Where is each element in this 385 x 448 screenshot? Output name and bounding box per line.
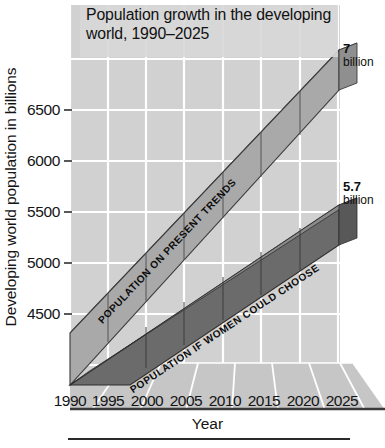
x-tick-label-2010: 2010: [206, 392, 244, 410]
x-tick-label-1995: 1995: [89, 392, 127, 410]
x-tick-label-2015: 2015: [245, 392, 283, 410]
callout-7-billion: 7 billion: [343, 42, 374, 69]
chart-title: Population growth in the developing worl…: [86, 5, 334, 43]
y-tick-label-4500: 4500: [16, 305, 60, 323]
callout-5-7-billion-unit: billion: [343, 194, 374, 208]
x-tick-label-2005: 2005: [167, 392, 205, 410]
chart-figure: Population growth in the developing worl…: [0, 0, 385, 448]
y-axis-title: Developing world population in billions: [0, 2, 22, 392]
callout-7-billion-value: 7: [343, 42, 374, 56]
callout-5-7-billion-value: 5.7: [343, 180, 374, 194]
y-tick-label-6500: 6500: [16, 101, 60, 119]
y-tick-label-5500: 5500: [16, 203, 60, 221]
y-tick-label-6000: 6000: [16, 152, 60, 170]
x-tick-label-2025: 2025: [323, 392, 361, 410]
chart-title-line-1: Population growth in the developing: [86, 5, 334, 24]
callout-7-billion-unit: billion: [343, 56, 374, 70]
x-tick-label-2020: 2020: [284, 392, 322, 410]
x-tick-label-1990: 1990: [51, 392, 89, 410]
bottom-divider-rule: [68, 438, 350, 440]
callout-5-7-billion: 5.7 billion: [343, 180, 374, 207]
chart-title-line-2: world, 1990–2025: [86, 24, 334, 43]
y-tick-label-5000: 5000: [16, 254, 60, 272]
x-axis-title: Year: [70, 415, 345, 433]
